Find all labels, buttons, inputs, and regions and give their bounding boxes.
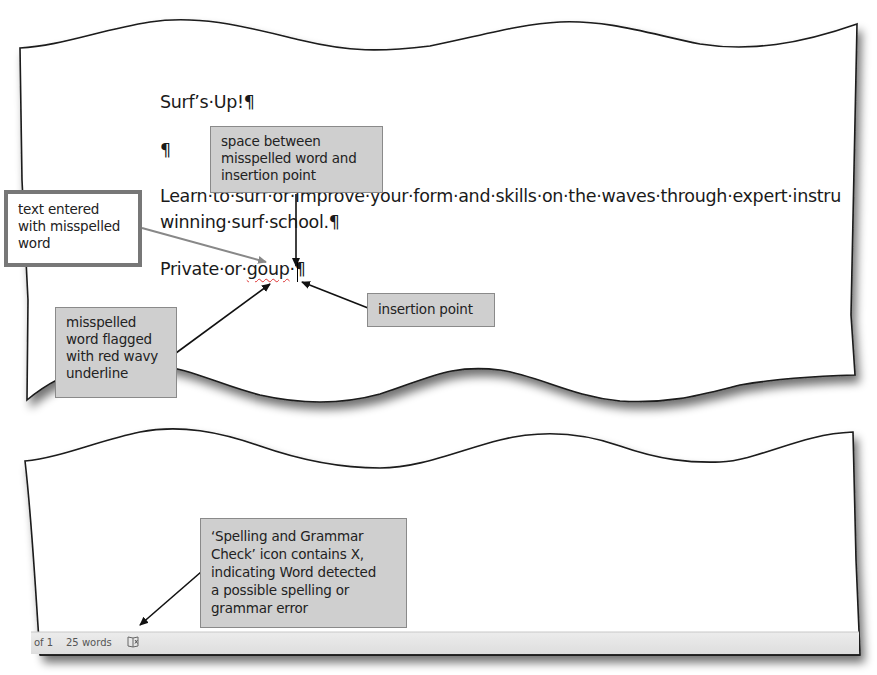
callout-line: a possible spelling or: [211, 581, 396, 599]
callout-line: Check’ icon contains X,: [211, 545, 396, 563]
private-prefix-text: Private·or·: [160, 259, 247, 279]
callout-line: text entered: [18, 201, 128, 218]
callout-line: ‘Spelling and Grammar: [211, 527, 396, 545]
status-bar: [31, 632, 859, 654]
callout-line: misspelled word and: [221, 150, 372, 167]
misspelled-word[interactable]: goup: [247, 259, 290, 279]
callout-space-between: space between misspelled word and insert…: [210, 126, 383, 193]
callout-spelling-icon: ‘Spelling and Grammar Check’ icon contai…: [200, 518, 407, 628]
callout-line: space between: [221, 133, 372, 150]
callout-line: word: [18, 235, 128, 252]
callout-line: indicating Word detected: [211, 563, 396, 581]
callout-line: grammar error: [211, 599, 396, 617]
callout-line: insertion point: [378, 301, 484, 318]
doc-body-line-2[interactable]: winning·surf·school.¶: [160, 212, 340, 232]
status-word-count[interactable]: 25 words: [66, 637, 112, 648]
callout-line: with red wavy: [66, 348, 166, 365]
insertion-point-cursor: [297, 262, 298, 282]
callout-line: with misspelled: [18, 218, 128, 235]
callout-line: insertion point: [221, 167, 372, 184]
callout-line: word flagged: [66, 331, 166, 348]
empty-paragraph-mark[interactable]: ¶: [160, 140, 171, 160]
callout-flagged-word: misspelled word flagged with red wavy un…: [55, 307, 177, 398]
callout-line: misspelled: [66, 314, 166, 331]
callout-text-entered: text entered with misspelled word: [4, 190, 142, 267]
callout-line: underline: [66, 365, 166, 382]
doc-title-paragraph[interactable]: Surf’s·Up!¶: [160, 92, 255, 112]
spelling-grammar-error-icon[interactable]: [126, 634, 142, 650]
doc-private-paragraph[interactable]: Private·or·goup·¶: [160, 259, 306, 279]
status-page-info[interactable]: of 1: [34, 637, 53, 648]
bottom-page-fragment: [25, 429, 860, 655]
callout-insertion-point: insertion point: [367, 293, 495, 327]
